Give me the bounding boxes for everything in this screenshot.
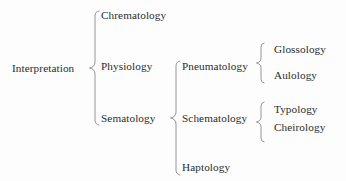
curly-brace-icon	[255, 42, 265, 84]
tree-node-glossology: Glossology	[274, 43, 326, 55]
tree-node-pneumatology: Pneumatology	[182, 60, 248, 72]
tree-node-physiology: Physiology	[101, 60, 152, 72]
tree-node-schematology: Schematology	[182, 112, 247, 124]
tree-node-haptology: Haptology	[182, 161, 230, 173]
curly-brace-icon	[169, 60, 181, 176]
tree-node-typology: Typology	[274, 103, 318, 115]
taxonomy-tree-diagram: Interpretation Chrematology Physiology S…	[0, 0, 346, 181]
tree-node-cheirology: Cheirology	[274, 121, 325, 133]
tree-node-aulology: Aulology	[274, 69, 317, 81]
curly-brace-icon	[255, 101, 265, 143]
tree-node-interpretation: Interpretation	[12, 62, 74, 74]
tree-node-sematology: Sematology	[101, 112, 155, 124]
curly-brace-icon	[88, 10, 100, 126]
tree-node-chrematology: Chrematology	[101, 9, 166, 21]
